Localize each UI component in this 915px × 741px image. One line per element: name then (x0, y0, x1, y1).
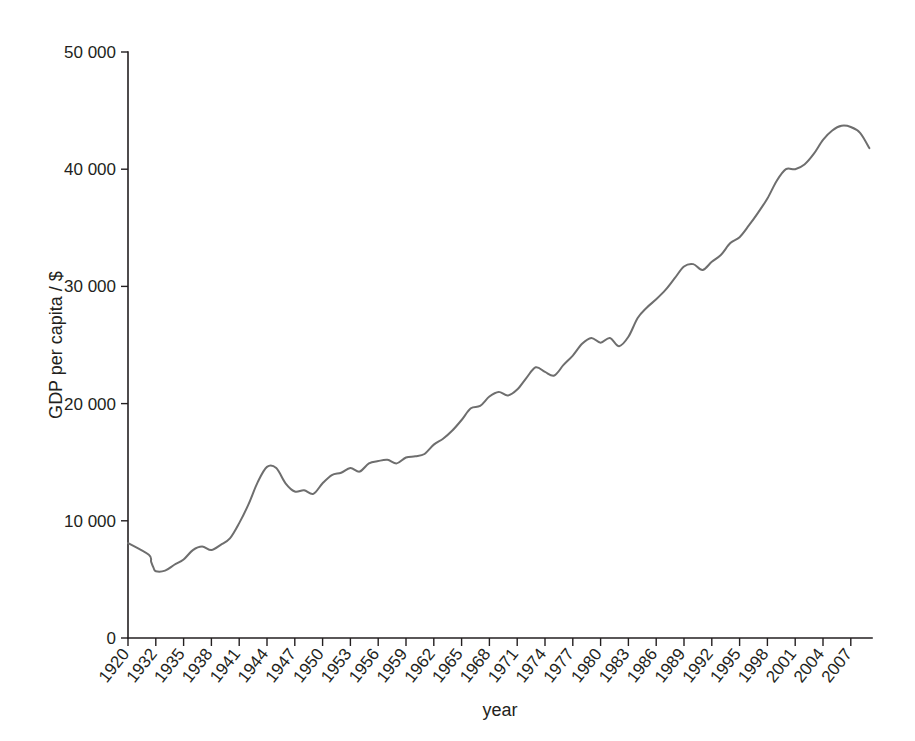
x-tick-label: 1953 (317, 645, 355, 687)
y-tick-label: 50 000 (64, 43, 116, 62)
chart-svg: 010 00020 00030 00040 00050 000 19201932… (0, 0, 915, 741)
x-tick-label: 1941 (206, 645, 244, 687)
y-tick-label: 30 000 (64, 277, 116, 296)
gdp-series-line (128, 126, 869, 572)
x-tick-label: 1959 (373, 645, 411, 687)
x-tick-label: 1947 (262, 645, 300, 687)
y-tick-label: 10 000 (64, 512, 116, 531)
x-tick-label: 1995 (706, 645, 744, 687)
x-tick-label: 1983 (595, 645, 633, 687)
x-tick-label: 1989 (651, 645, 689, 687)
x-tick-label: 1938 (178, 645, 216, 687)
x-tick-label: 1950 (289, 645, 327, 687)
x-tick-label: 1932 (123, 645, 161, 687)
x-tick-label: 1992 (679, 645, 717, 687)
x-tick-label: 1962 (401, 645, 439, 687)
x-tick-label: 1980 (567, 645, 605, 687)
x-tick-label: 2007 (818, 645, 856, 687)
x-tick-label: 1998 (734, 645, 772, 687)
x-tick-label: 1965 (428, 645, 466, 687)
y-axis-title: GDP per capita / $ (46, 271, 66, 419)
x-tick-label: 2001 (762, 645, 800, 687)
x-tick-label: 1968 (456, 645, 494, 687)
x-tick-label: 1974 (512, 645, 550, 687)
plot-area: 010 00020 00030 00040 00050 000 19201932… (64, 43, 872, 686)
x-tick-label: 1956 (345, 645, 383, 687)
y-tick-label: 0 (107, 629, 116, 648)
x-tick-group: 1920193219351938194119441947195019531956… (95, 638, 856, 686)
x-tick-label: 2004 (790, 645, 828, 687)
x-tick-label: 1920 (95, 645, 133, 687)
y-tick-label: 20 000 (64, 395, 116, 414)
gdp-per-capita-chart: 010 00020 00030 00040 00050 000 19201932… (0, 0, 915, 741)
x-tick-label: 1977 (540, 645, 578, 687)
x-tick-label: 1944 (234, 645, 272, 687)
x-axis-title: year (482, 700, 517, 720)
y-tick-group: 010 00020 00030 00040 00050 000 (64, 43, 128, 648)
x-tick-label: 1986 (623, 645, 661, 687)
y-tick-label: 40 000 (64, 160, 116, 179)
x-tick-label: 1971 (484, 645, 522, 687)
x-tick-label: 1935 (150, 645, 188, 687)
